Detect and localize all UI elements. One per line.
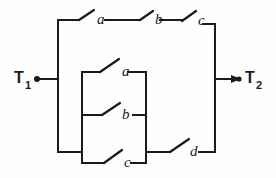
sw-inner-c-blade[interactable]: [104, 150, 122, 163]
sw-top-a-label: a: [97, 11, 105, 27]
circuit-diagram: a b c a b c d T 1 T 2: [0, 0, 276, 178]
sw-inner-c-label: c: [124, 154, 131, 170]
circuit-svg: a b c a b c d T 1 T 2: [0, 0, 276, 178]
terminal-t2-dot: [236, 76, 241, 81]
terminal-t1-group: [34, 76, 58, 82]
terminal-t1-subscript: 1: [25, 79, 31, 91]
terminal-t2-label-group: T 2: [245, 69, 262, 91]
sw-top-a-blade[interactable]: [79, 10, 94, 20]
sw-bottom-d-blade[interactable]: [170, 139, 189, 152]
sw-inner-b-blade[interactable]: [102, 103, 120, 115]
terminal-t2-label: T: [245, 69, 255, 86]
sw-bottom-d-label: d: [190, 143, 198, 159]
terminal-t2-subscript: 2: [256, 79, 262, 91]
terminal-t1-label-group: T 1: [14, 69, 31, 91]
sw-top-c-label: c: [198, 12, 205, 28]
sw-inner-a-blade[interactable]: [100, 59, 119, 72]
sw-top-b-label: b: [155, 11, 163, 27]
sw-top-b-blade[interactable]: [140, 11, 153, 20]
terminal-t1-label: T: [14, 69, 24, 86]
sw-inner-b-label: b: [122, 106, 130, 122]
sw-inner-a-label: a: [122, 63, 130, 79]
terminal-t1-dot: [34, 76, 40, 82]
terminal-t2-group: [215, 75, 242, 83]
sw-top-c-blade[interactable]: [182, 11, 196, 21]
